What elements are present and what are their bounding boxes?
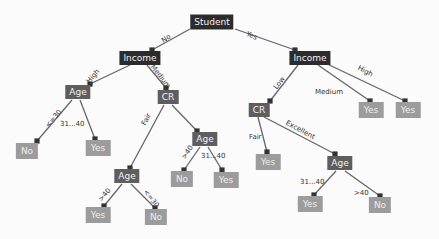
- leaf-yes: Yes: [359, 102, 384, 118]
- decision-tree-diagram: Student Income Income Age CR No Yes Age …: [0, 0, 439, 239]
- leaf-yes: Yes: [396, 102, 421, 118]
- node-age-mid: Age: [192, 132, 217, 146]
- leaf-yes: Yes: [86, 140, 111, 156]
- leaf-no: No: [145, 209, 167, 225]
- edge-label-medium: Medium: [315, 88, 343, 96]
- leaf-no: No: [16, 143, 38, 159]
- edge-label-fair: Fair: [249, 133, 262, 141]
- leaf-yes: Yes: [256, 154, 281, 170]
- edge-label-31-40: 31...40: [60, 120, 85, 128]
- leaf-no: No: [171, 171, 193, 187]
- leaf-yes: Yes: [298, 196, 323, 212]
- node-cr-medium: CR: [158, 90, 179, 104]
- edge-label-31-40: 31...40: [300, 178, 325, 186]
- node-cr-low: CR: [249, 103, 270, 117]
- node-age-high: Age: [65, 85, 90, 99]
- leaf-no: No: [369, 197, 391, 213]
- node-income-right: Income: [289, 51, 330, 65]
- edge-label-31-40: 31...40: [201, 152, 226, 160]
- edge-label-gt40: >40: [354, 189, 369, 197]
- node-age-fair: Age: [114, 169, 139, 183]
- leaf-yes: Yes: [214, 172, 239, 188]
- leaf-yes: Yes: [86, 207, 111, 223]
- node-age-excellent: Age: [327, 156, 352, 170]
- node-student: Student: [190, 15, 233, 30]
